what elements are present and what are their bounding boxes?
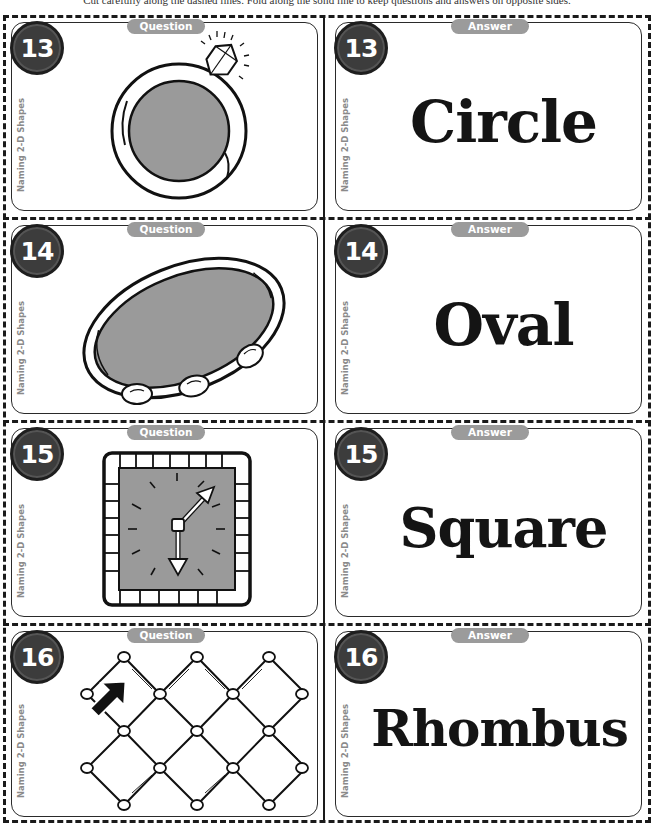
card-number-badge: 16 [334, 630, 388, 684]
answer-pill: Answer [451, 222, 529, 237]
side-label: Naming 2-D Shapes [16, 504, 26, 598]
flashcard-sheet: 13 Question Naming 2-D Shapes 13 Answer [3, 15, 651, 823]
cut-line-right [648, 15, 651, 823]
answer-word: Oval [366, 291, 641, 359]
question-pill: Question [127, 628, 205, 643]
question-card-13: 13 Question Naming 2-D Shapes [11, 22, 318, 211]
chain-link-fence-icon [72, 647, 302, 807]
ring-icon [97, 33, 267, 208]
answer-word: Rhombus [358, 699, 641, 758]
side-label: Naming 2-D Shapes [340, 301, 350, 395]
question-pill: Question [127, 222, 205, 237]
tambourine-icon [72, 246, 297, 411]
answer-word: Circle [366, 88, 641, 156]
card-number-badge: 15 [334, 427, 388, 481]
cut-line-bottom [3, 820, 651, 823]
side-label: Naming 2-D Shapes [340, 98, 350, 192]
cut-line-top [3, 15, 651, 18]
side-label: Naming 2-D Shapes [16, 98, 26, 192]
question-card-16: 16 Question Naming 2-D Shapes [11, 631, 318, 817]
fold-line [323, 15, 325, 823]
cut-line-row-3 [3, 623, 651, 626]
question-card-15: 15 Question Naming 2-D Shapes [11, 428, 318, 617]
answer-word: Square [366, 496, 641, 560]
answer-pill: Answer [451, 628, 529, 643]
answer-pill: Answer [451, 425, 529, 440]
cut-line-row-2 [3, 420, 651, 423]
question-pill: Question [127, 19, 205, 34]
card-number-badge: 14 [334, 224, 388, 278]
side-label: Naming 2-D Shapes [340, 704, 350, 798]
cut-line-row-1 [3, 217, 651, 220]
cut-line-left [3, 15, 6, 823]
instructions-text: Cut carefully along the dashed lines. Fo… [0, 0, 654, 6]
answer-card-16: 16 Answer Naming 2-D Shapes Rhombus [335, 631, 642, 817]
side-label: Naming 2-D Shapes [16, 301, 26, 395]
question-pill: Question [127, 425, 205, 440]
side-label: Naming 2-D Shapes [16, 704, 26, 798]
square-clock-icon [102, 451, 252, 609]
answer-pill: Answer [451, 19, 529, 34]
question-card-14: 14 Question Naming 2-D Shapes [11, 225, 318, 414]
side-label: Naming 2-D Shapes [340, 504, 350, 598]
card-number-badge: 15 [10, 427, 64, 481]
card-number-badge: 14 [10, 224, 64, 278]
card-number-badge: 13 [10, 21, 64, 75]
card-number-badge: 16 [10, 630, 64, 684]
answer-card-13: 13 Answer Naming 2-D Shapes Circle [335, 22, 642, 211]
answer-card-14: 14 Answer Naming 2-D Shapes Oval [335, 225, 642, 414]
card-number-badge: 13 [334, 21, 388, 75]
answer-card-15: 15 Answer Naming 2-D Shapes Square [335, 428, 642, 617]
